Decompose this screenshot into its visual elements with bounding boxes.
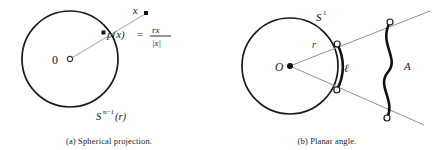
marker-inner-lower-icon <box>334 87 340 93</box>
marker-outer-lower-icon <box>384 115 390 121</box>
center-marker-icon <box>67 56 72 61</box>
label-equals: = <box>137 28 143 40</box>
ray-upper <box>290 11 430 66</box>
label-origin: O <box>275 61 284 73</box>
exterior-point-marker-icon <box>144 11 148 15</box>
label-denominator: |x| <box>152 38 161 48</box>
panel-b-graphic: O r S 1 ℓ A <box>218 0 436 150</box>
marker-inner-upper-icon <box>334 41 340 47</box>
label-sphere: S <box>96 111 102 122</box>
ray-lower <box>290 66 424 125</box>
panel-spherical-projection: 0 x p(x) = rx |x| S n−1 (r) (a) Spherica… <box>0 0 218 150</box>
label-center: 0 <box>52 53 58 67</box>
panel-a-graphic: 0 x p(x) = rx |x| S n−1 (r) <box>0 0 218 150</box>
panel-planar-angle: O r S 1 ℓ A (b) Planar angle. <box>218 0 436 150</box>
origin-marker-icon <box>287 63 293 69</box>
arc-outer-a <box>384 22 392 118</box>
label-point-x: x <box>132 5 138 16</box>
projection-point-marker-icon <box>102 31 106 35</box>
label-arc-outer: A <box>403 60 411 72</box>
label-numerator: rx <box>152 25 160 35</box>
label-sphere-exponent: n−1 <box>103 108 114 116</box>
label-projection: p(x) <box>106 28 125 41</box>
label-sphere-argument: (r) <box>115 111 127 123</box>
label-radius: r <box>312 39 316 50</box>
figure-container: 0 x p(x) = rx |x| S n−1 (r) (a) Spherica… <box>0 0 436 150</box>
label-circle-exponent: 1 <box>323 9 327 17</box>
caption-panel-a: (a) Spherical projection. <box>0 136 218 146</box>
label-circle: S <box>316 11 322 23</box>
caption-panel-b: (b) Planar angle. <box>218 136 436 146</box>
marker-outer-upper-icon <box>387 19 393 25</box>
label-arc-inner: ℓ <box>344 62 349 74</box>
